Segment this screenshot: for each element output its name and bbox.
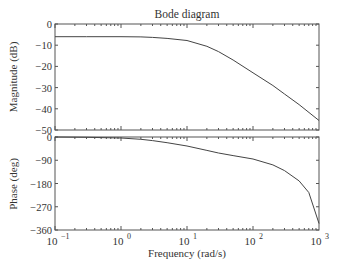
phase-y-ticks: 0−90−180−270−360 xyxy=(30,132,319,236)
svg-text:1: 1 xyxy=(193,232,197,241)
phase-y-label: Phase (deg) xyxy=(7,158,20,210)
chart-title: Bode diagram xyxy=(155,8,220,21)
svg-text:10: 10 xyxy=(113,235,125,247)
magnitude-y-label: Magnitude (dB) xyxy=(7,41,20,112)
svg-text:−270: −270 xyxy=(30,202,52,213)
svg-text:2: 2 xyxy=(259,232,263,241)
phase-axes-frame xyxy=(55,137,319,230)
svg-text:−90: −90 xyxy=(36,155,52,166)
svg-text:0: 0 xyxy=(47,19,52,30)
magnitude-curve xyxy=(55,37,319,121)
svg-text:−30: −30 xyxy=(36,83,52,94)
svg-text:−10: −10 xyxy=(36,40,52,51)
svg-text:−1: −1 xyxy=(61,232,70,241)
magnitude-axes-frame xyxy=(55,24,319,130)
svg-text:3: 3 xyxy=(325,232,329,241)
svg-text:−180: −180 xyxy=(30,179,52,190)
svg-text:10: 10 xyxy=(311,235,323,247)
svg-text:−40: −40 xyxy=(36,104,52,115)
svg-text:10: 10 xyxy=(47,235,59,247)
svg-text:0: 0 xyxy=(127,232,131,241)
svg-text:10: 10 xyxy=(245,235,257,247)
phase-curve xyxy=(55,137,319,224)
phase-x-ticks xyxy=(55,137,316,230)
svg-text:−20: −20 xyxy=(36,61,52,72)
x-axis-label: Frequency (rad/s) xyxy=(148,247,226,260)
bode-chart: Bode diagram 0−10−20−30−40−50 Magnitude … xyxy=(0,0,340,275)
magnitude-plot: 0−10−20−30−40−50 Magnitude (dB) xyxy=(7,19,319,136)
svg-text:10: 10 xyxy=(179,235,191,247)
x-tick-labels: 10−1100101102103 xyxy=(47,232,330,247)
phase-plot: 0−90−180−270−360 Phase (deg) xyxy=(7,132,319,236)
svg-text:0: 0 xyxy=(47,132,52,143)
